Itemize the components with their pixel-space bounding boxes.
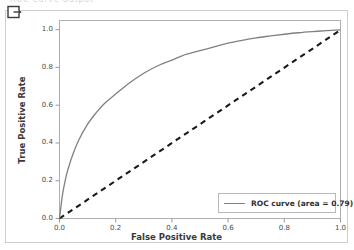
chart-legend[interactable]: ROC curve (area = 0.79)	[218, 193, 336, 213]
x-tick-label: 0.8	[271, 224, 297, 232]
x-tick-label: 0.0	[47, 224, 73, 232]
legend-label-roc: ROC curve (area = 0.79)	[251, 199, 353, 208]
x-axis-title: False Positive Rate	[0, 232, 353, 242]
y-tick-label: 0.6	[31, 101, 53, 109]
x-tick-label: 0.4	[159, 224, 185, 232]
y-axis-title: True Positive Rate	[17, 60, 27, 180]
x-tick-label: 0.6	[215, 224, 241, 232]
x-axis-ticks	[60, 219, 341, 223]
y-tick-label: 0.0	[31, 214, 53, 222]
x-tick-label: 1.0	[328, 224, 354, 232]
y-tick-label: 0.2	[31, 176, 53, 184]
y-axis-ticks	[56, 30, 60, 219]
x-tick-label: 0.2	[103, 224, 129, 232]
y-tick-label: 0.4	[31, 138, 53, 146]
legend-line-sample	[224, 203, 245, 204]
y-tick-label: 1.0	[31, 25, 53, 33]
y-tick-label: 0.8	[31, 63, 53, 71]
